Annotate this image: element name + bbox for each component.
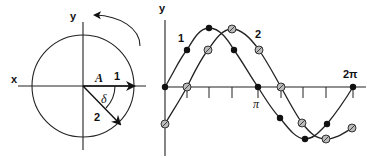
- curve-2-label: 2: [255, 28, 261, 40]
- phasor-x-label: x: [11, 73, 18, 85]
- vector-2-label: 2: [94, 111, 100, 123]
- diagram-canvas: x y A 1 2 δ y π 2π: [0, 0, 374, 158]
- wave-y-label: y: [159, 2, 166, 14]
- amplitude-label: A: [94, 71, 103, 85]
- rotation-arrow-icon: [95, 15, 140, 46]
- phase-label: δ: [101, 92, 107, 106]
- tick-pi-label: π: [253, 97, 260, 111]
- phasor-diagram: x y A 1 2 δ: [11, 10, 146, 150]
- phasor-y-label: y: [70, 10, 77, 22]
- x-ticks: [187, 87, 353, 98]
- tick-2pi-label: 2π: [343, 68, 358, 80]
- vector-1-label: 1: [114, 70, 120, 82]
- curve-1-label: 1: [178, 32, 184, 44]
- waveform-graph: y π 2π: [159, 2, 366, 156]
- phase-angle-arc: [106, 86, 115, 108]
